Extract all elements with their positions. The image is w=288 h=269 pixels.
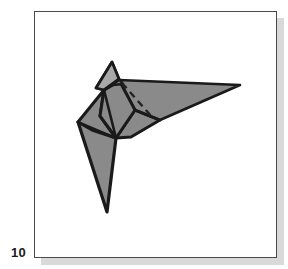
figure-panel xyxy=(34,11,277,258)
figure-number-label: 10 xyxy=(11,245,26,261)
figure-page: 10 xyxy=(0,0,288,269)
